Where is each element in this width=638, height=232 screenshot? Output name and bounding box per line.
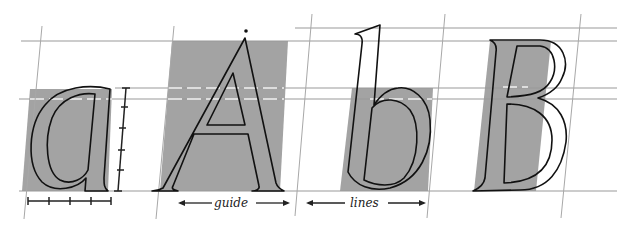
shaded-blocks xyxy=(22,41,551,191)
shade-a xyxy=(22,89,112,191)
horizontal-measure xyxy=(28,197,111,205)
apex-dot xyxy=(244,29,248,33)
lines-label-group: lines xyxy=(306,196,426,210)
letter-guide-diagram: guide lines xyxy=(0,0,638,232)
label-guide: guide xyxy=(214,196,248,210)
shade-A xyxy=(160,41,288,191)
slant-line-3 xyxy=(295,14,312,216)
label-lines: lines xyxy=(350,196,379,210)
guide-label-group: guide xyxy=(178,196,290,210)
shade-b xyxy=(340,88,433,191)
slant-line-5 xyxy=(561,14,581,218)
vertical-measure xyxy=(114,88,130,191)
